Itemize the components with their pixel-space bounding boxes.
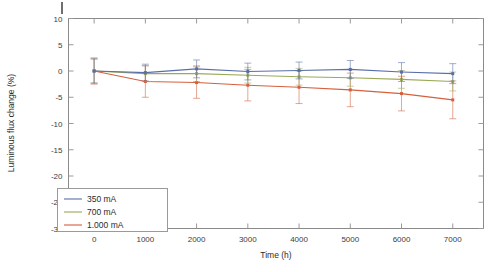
data-point (93, 70, 96, 73)
x-tick-label: 0 (92, 235, 97, 244)
legend-label: 700 mA (87, 207, 117, 217)
data-point (349, 68, 352, 71)
x-tick-label: 7000 (444, 235, 462, 244)
x-tick-label: 2000 (188, 235, 206, 244)
x-tick-label: 5000 (341, 235, 359, 244)
x-tick-label: 4000 (290, 235, 308, 244)
data-point (298, 86, 301, 89)
chart-legend[interactable]: 350 mA700 mA1.000 mA (58, 189, 168, 232)
legend-label: 1.000 mA (87, 220, 124, 230)
data-point (451, 98, 454, 101)
data-point (349, 88, 352, 91)
data-point (195, 67, 198, 70)
x-tick-label: 1000 (136, 235, 154, 244)
legend-label: 350 mA (87, 194, 117, 204)
x-tick-label: 3000 (239, 235, 257, 244)
y-tick-label: -10 (51, 120, 63, 129)
data-point (144, 71, 147, 74)
y-tick-label: 0 (58, 67, 63, 76)
luminous-flux-chart: 1050-5-10-15-20-25-30 010002000300040005… (0, 0, 496, 272)
y-tick-label: -5 (55, 93, 63, 102)
y-tick-label: -15 (51, 146, 63, 155)
x-axis-title: Time (h) (260, 250, 291, 260)
data-point (451, 72, 454, 75)
y-tick-label: 10 (54, 15, 63, 24)
x-tick-label: 6000 (393, 235, 411, 244)
y-tick-label: -20 (51, 172, 63, 181)
y-axis-title: Luminous flux change (%) (6, 74, 16, 172)
y-tick-label: 5 (58, 41, 63, 50)
data-point (400, 92, 403, 95)
data-point (400, 71, 403, 74)
data-point (246, 70, 249, 73)
data-point (246, 84, 249, 87)
data-point (298, 69, 301, 72)
